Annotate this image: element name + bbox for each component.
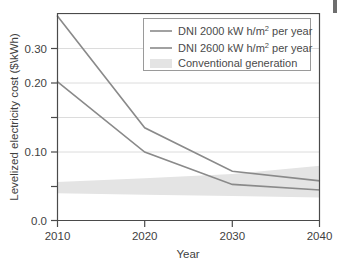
page-edge-artifact	[333, 0, 337, 13]
legend-label-dni-2600: DNI 2600 kW h/m2 per year	[178, 41, 313, 54]
legend-label-dni-2000-prefix: DNI 2000 kW h/m	[178, 25, 265, 37]
legend-label-dni-2000: DNI 2000 kW h/m2 per year	[178, 24, 313, 37]
legend-marker-conventional-generation	[150, 59, 172, 68]
y-tick-label-0-30: 0.30	[25, 43, 47, 55]
x-tick-label-2010: 2010	[45, 230, 71, 242]
figure-container: 0.0 0.10 0.20 0.30 2010 2020 2030 2040 Y…	[0, 0, 341, 266]
legend-label-conventional-generation: Conventional generation	[178, 57, 297, 69]
y-tick-label-0-20: 0.20	[25, 77, 47, 89]
y-axis-title: Levelized electricity cost ($\kWh)	[8, 33, 20, 201]
legend-label-dni-2600-prefix: DNI 2600 kW h/m	[178, 42, 265, 54]
legend-label-dni-2600-suffix: per year	[269, 42, 313, 54]
y-tick-label-0-0: 0.0	[31, 215, 47, 227]
legend-label-dni-2000-suffix: per year	[269, 25, 313, 37]
legend: DNI 2000 kW h/m2 per year DNI 2600 kW h/…	[144, 19, 313, 71]
x-axis-title: Year	[176, 248, 199, 260]
y-axis-ticks	[51, 49, 57, 221]
x-tick-label-2020: 2020	[132, 230, 158, 242]
x-axis-ticks	[58, 221, 320, 227]
x-tick-label-2040: 2040	[307, 230, 333, 242]
levelized-cost-line-chart: 0.0 0.10 0.20 0.30 2010 2020 2030 2040 Y…	[0, 0, 341, 266]
x-tick-label-2030: 2030	[220, 230, 246, 242]
y-tick-label-0-10: 0.10	[25, 146, 47, 158]
